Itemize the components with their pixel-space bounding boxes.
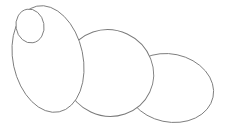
ellipse-sketch xyxy=(0,0,231,135)
drawing-canvas: Line sketch of overlapping ellipses (cat… xyxy=(0,0,231,135)
